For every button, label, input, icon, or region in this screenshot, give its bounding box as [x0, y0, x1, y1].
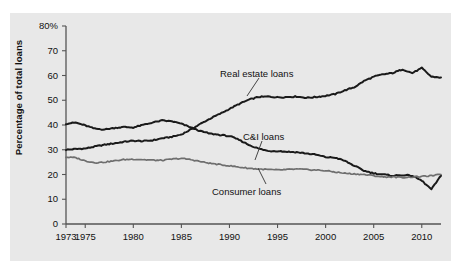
y-tick-label: 30 [28, 144, 58, 155]
x-tick-label: 1975 [68, 231, 102, 242]
y-tick-label: 10 [28, 193, 58, 204]
consumer-loans-label: Consumer loans [212, 186, 281, 197]
ci-loans-label: C&I loans [243, 131, 284, 142]
real-estate-loans-label: Real estate loans [220, 68, 293, 79]
x-tick-label: 2005 [357, 231, 391, 242]
y-tick-label: 80% [24, 20, 58, 31]
leader-line-ci [255, 141, 262, 160]
x-tick-label: 2010 [405, 231, 439, 242]
x-tick-label: 1980 [116, 231, 150, 242]
leader-line-real-estate [247, 78, 259, 96]
x-tick-label: 1995 [261, 231, 295, 242]
x-tick-label: 1990 [212, 231, 246, 242]
chart-figure: Percentage of total loans 80%70605040302… [0, 0, 461, 277]
y-tick-label: 20 [28, 169, 58, 180]
y-tick-label: 70 [28, 45, 58, 56]
x-tick-label: 1985 [164, 231, 198, 242]
y-tick-label: 50 [28, 94, 58, 105]
y-tick-label: 40 [28, 119, 58, 130]
y-tick-label: 60 [28, 70, 58, 81]
y-tick-label: 0 [28, 218, 58, 229]
leader-line-consumer [258, 168, 266, 184]
x-tick-label: 2000 [309, 231, 343, 242]
y-axis-label: Percentage of total loans [13, 28, 24, 168]
